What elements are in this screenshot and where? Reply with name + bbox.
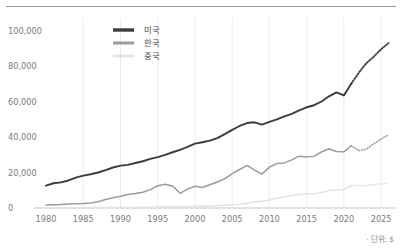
xtick-label-1990: 1990 [110, 214, 131, 224]
ytick-label-60000: 60,000 [8, 97, 37, 107]
series-forecast-미국 [351, 43, 388, 83]
legend-label-미국: 미국 [144, 25, 160, 35]
ytick-label-100000: 100,000 [8, 26, 42, 36]
ytick-label-20000: 20,000 [8, 168, 37, 178]
xtick-label-1985: 1985 [73, 214, 94, 224]
series-forecast-한국 [351, 135, 388, 151]
series-forecast-중국 [351, 183, 388, 186]
legend-label-중국: 중국 [144, 51, 160, 61]
unit-footnote: · 단위: $ [366, 233, 394, 244]
xtick-label-1995: 1995 [147, 214, 168, 224]
y-axis-tick-labels: 020,00040,00060,00080,000100,000 [8, 26, 42, 213]
series-line-미국 [46, 84, 351, 186]
xtick-label-2020: 2020 [333, 214, 354, 224]
ytick-label-40000: 40,000 [8, 132, 37, 142]
top-divider [6, 6, 396, 7]
xtick-label-2015: 2015 [296, 214, 317, 224]
ytick-label-80000: 80,000 [8, 61, 37, 71]
series-line-한국 [46, 146, 351, 205]
gridlines-vertical [83, 18, 381, 208]
xtick-label-2005: 2005 [222, 214, 243, 224]
legend-label-한국: 한국 [144, 38, 160, 48]
chart-legend: 미국한국중국 [113, 25, 160, 61]
chart-svg: 020,00040,00060,00080,000100,000 1980198… [0, 10, 402, 248]
xtick-label-2025: 2025 [371, 214, 392, 224]
xtick-label-2000: 2000 [185, 214, 206, 224]
chart-page: 020,00040,00060,00080,000100,000 1980198… [0, 0, 402, 248]
series-line-중국 [46, 186, 351, 208]
ytick-label-0: 0 [8, 203, 13, 213]
xtick-label-1980: 1980 [36, 214, 57, 224]
xtick-label-2010: 2010 [259, 214, 280, 224]
line-chart: 020,00040,00060,00080,000100,000 1980198… [0, 10, 402, 248]
x-axis-tick-labels: 1980198519901995200020052010201520202025 [36, 214, 392, 224]
series-group [46, 43, 389, 208]
